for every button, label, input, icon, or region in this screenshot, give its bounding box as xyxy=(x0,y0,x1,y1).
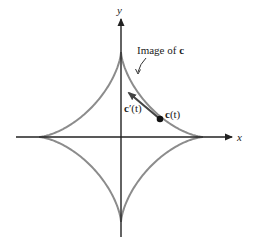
astroid-diagram: x y Image of c c(t) c′(t) xyxy=(0,0,256,247)
tangent-c-prime-t-label: c′(t) xyxy=(124,102,142,115)
y-axis-label: y xyxy=(116,4,122,16)
point-c-t xyxy=(157,116,164,123)
x-axis-label: x xyxy=(236,131,242,143)
image-label-leader xyxy=(138,58,146,72)
point-c-t-label: c(t) xyxy=(165,108,181,121)
image-of-c-label: Image of c xyxy=(137,44,184,56)
